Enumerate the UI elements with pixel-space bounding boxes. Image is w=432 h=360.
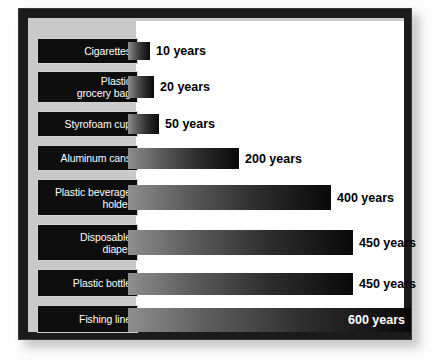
bar-rows: Cigarettes10 yearsPlastic grocery bag20 … <box>28 18 404 332</box>
bar-value-6: 450 years <box>359 278 416 291</box>
bar-value-2: 50 years <box>165 118 215 131</box>
bar-value-5: 450 years <box>359 237 416 250</box>
bar-label-6: Plastic bottle <box>37 269 138 297</box>
bar-2 <box>128 114 159 134</box>
bar-label-0: Cigarettes <box>37 38 138 64</box>
bar-label-2: Styrofoam cup <box>37 111 138 137</box>
bar-3 <box>128 148 239 169</box>
bar-5 <box>128 230 353 255</box>
bar-value-7: 600 years <box>348 314 405 327</box>
bar-value-4: 400 years <box>337 192 394 205</box>
bar-1 <box>128 76 154 98</box>
bar-label-3: Aluminum cans <box>37 145 138 171</box>
bar-value-3: 200 years <box>245 153 302 166</box>
bar-value-1: 20 years <box>160 81 210 94</box>
bar-value-0: 10 years <box>156 45 206 58</box>
bar-0 <box>128 42 150 60</box>
bar-label-1: Plastic grocery bag <box>37 71 138 103</box>
chart-frame: Cigarettes10 yearsPlastic grocery bag20 … <box>18 8 412 340</box>
chart-panel: Cigarettes10 yearsPlastic grocery bag20 … <box>28 18 404 332</box>
bar-label-4: Plastic beverage holder <box>37 179 138 216</box>
scanned-page: Cigarettes10 yearsPlastic grocery bag20 … <box>0 0 432 360</box>
bar-4 <box>128 185 331 210</box>
bar-label-7: Fishing line <box>37 305 138 333</box>
bar-6 <box>128 273 353 295</box>
bar-label-5: Disposable diaper <box>37 224 138 261</box>
